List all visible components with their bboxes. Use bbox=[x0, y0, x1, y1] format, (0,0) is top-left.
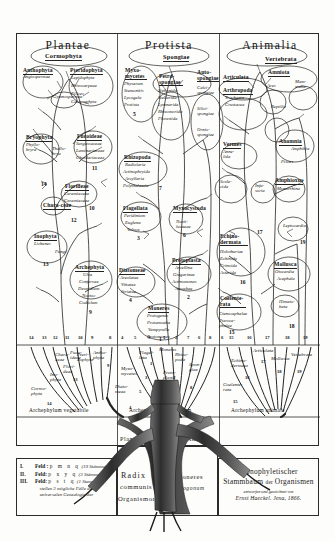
group-member-crinoida: Crinoida bbox=[220, 264, 237, 269]
group-member-volvox: Volvox bbox=[127, 228, 140, 233]
lower-label-echinodermata: Echino-dermata bbox=[231, 358, 253, 368]
scale-number-12: 12 bbox=[53, 336, 58, 341]
scale-number-7: 7 bbox=[187, 336, 189, 341]
realm-title-plantae: Plantae bbox=[25, 39, 111, 51]
group-member-radiolaria: Radiolaria bbox=[125, 163, 145, 168]
group-head-myxomycetes: Myxo-mycetes bbox=[125, 68, 147, 80]
group-member-areolatae: Areolatae bbox=[120, 276, 138, 281]
stem-number-1: 1 bbox=[159, 337, 162, 343]
lower-label-vertebrata: Vertebrata bbox=[291, 352, 312, 357]
radix-line-3: Organismorum bbox=[118, 495, 165, 502]
stem-number-9: 9 bbox=[89, 310, 92, 316]
legend-paren-3: (1 Stamm) bbox=[77, 479, 98, 484]
scale-number-8b: 8 bbox=[209, 336, 211, 341]
stem-number-10: 10 bbox=[89, 206, 95, 212]
lower-number-15: 15 bbox=[233, 400, 238, 405]
group-head-amniota: Amniota bbox=[268, 70, 290, 77]
group-member-orniospongiae: Ornio-spongiae bbox=[197, 128, 216, 138]
lower-label-myxomycetes: Myxo-mycetes bbox=[121, 366, 139, 376]
scale-number-9: 9 bbox=[91, 336, 93, 341]
scale-number-11: 11 bbox=[65, 336, 69, 341]
group-member-physarum: Physarum bbox=[124, 82, 143, 87]
group-member-vampyrella: Vampyrella bbox=[148, 328, 169, 333]
stem-number-4: 4 bbox=[129, 298, 132, 304]
scale-number-6b: 6 bbox=[221, 336, 223, 341]
scale-number-1: 1 bbox=[163, 336, 165, 341]
group-head-himatobata: Himato-bata bbox=[279, 300, 297, 310]
lower-label-rhizopoda: Rhizo-poda bbox=[175, 352, 191, 362]
stem-number-19: 19 bbox=[300, 240, 306, 246]
group-member-annelida: Anne-lida bbox=[223, 150, 239, 160]
haeckel-tree-page: Plantae Protista Animalia Cormophyta Ant… bbox=[0, 0, 335, 541]
stem-number-7: 7 bbox=[159, 186, 162, 192]
group-head-cormophyta: Cormophyta bbox=[45, 53, 82, 61]
group-member-euglena: Euglena bbox=[125, 221, 141, 226]
group-member-striatae: Striatae bbox=[121, 290, 136, 295]
lower-label-spongiae: Spon-giae bbox=[189, 362, 205, 372]
stem-number-3: 3 bbox=[137, 236, 140, 242]
lower-number-1: 1 bbox=[150, 362, 152, 367]
lower-label-moneres: Moneres bbox=[159, 347, 176, 352]
scale-number-16: 16 bbox=[247, 336, 252, 341]
legend-feld-3: Feld: bbox=[35, 478, 47, 484]
scale-number-18: 18 bbox=[285, 336, 290, 341]
group-member-ctenocephalae: Ctenocephalae bbox=[219, 312, 247, 317]
legend-feld-2: Feld: bbox=[35, 471, 47, 477]
group-member-thallobrya: Thallo-brya bbox=[52, 147, 70, 157]
signature-stammbaum: Stammbaum bbox=[223, 477, 265, 486]
group-member-arcyllaria: Arcyllaria bbox=[125, 177, 144, 182]
signature-line-1: Monophyletischer bbox=[219, 467, 318, 476]
group-member-stellarida: Stellarida bbox=[158, 96, 177, 101]
archephylum-vegetabile: Archephylum vegetabile bbox=[29, 408, 89, 414]
scale-number-10: 10 bbox=[78, 336, 83, 341]
group-member-florestida: Florestida bbox=[158, 117, 177, 122]
lower-number-17: 17 bbox=[261, 360, 266, 365]
group-member-actinophryida: Actinophryida bbox=[123, 170, 150, 175]
scale-number-14: 14 bbox=[29, 336, 34, 341]
stem-number-5: 5 bbox=[133, 112, 136, 118]
group-member-pterocephalae: Pteroce-phalae bbox=[219, 319, 243, 329]
legend-row-1: I.Feld : p m n q (19 Stämme) bbox=[20, 463, 113, 469]
group-member-siphonida: Siphonida bbox=[158, 89, 177, 94]
group-member-asterida: Asterida bbox=[220, 271, 236, 276]
tree-diagram-frame: Plantae Protista Animalia Cormophyta Ant… bbox=[16, 33, 319, 446]
group-member-leptocardia: Leptocardia bbox=[283, 224, 303, 229]
moneres-autogonum-line-2: autogonum bbox=[174, 485, 205, 491]
scale-number-4: 4 bbox=[121, 336, 123, 341]
group-member-angiospermae: Angiospermae bbox=[23, 75, 50, 80]
group-member-codiolum: Codiolum bbox=[79, 301, 98, 306]
kingdom-bottom-animalia: Animalia bbox=[187, 435, 214, 442]
moneres-autogonum-line-1: Moneres bbox=[176, 473, 203, 480]
group-head-scolecida: Scole-cida bbox=[220, 180, 236, 190]
lower-label-florideae: Flori-deae bbox=[63, 364, 79, 374]
lower-number-18: 18 bbox=[277, 370, 282, 375]
radix-line-2: communis bbox=[120, 483, 152, 490]
legend-roman-1: I. bbox=[20, 463, 35, 469]
legend-paren-1: (19 Stämme) bbox=[81, 464, 106, 469]
group-member-noctoc: Noctoc bbox=[82, 294, 95, 299]
lower-label-articulata: Articulata bbox=[253, 348, 273, 353]
group-member-echinida: Echinida bbox=[220, 257, 237, 262]
signature-frame: Monophyletischer Stammbaum der Organisme… bbox=[218, 458, 319, 516]
group-member-ulva: Ulva bbox=[83, 273, 92, 278]
group-member-phyllobrya: Phyllo-bryra bbox=[26, 143, 44, 153]
group-head-amphioxus: Amphioxus bbox=[275, 178, 303, 185]
stem-number-6: 6 bbox=[183, 233, 186, 239]
stem-number-12: 12 bbox=[71, 218, 77, 224]
signature-organismen: Organismen bbox=[275, 477, 314, 486]
group-member-calcispongiae: Calci-spongiae bbox=[197, 86, 216, 96]
group-member-pisces: Pisces bbox=[281, 160, 293, 165]
stem-number-17: 17 bbox=[257, 230, 263, 236]
group-head-spongiae: Spongiae bbox=[163, 54, 189, 62]
legend-codes-3: p s t q bbox=[48, 478, 75, 484]
group-member-polythalamia: Polythalamia bbox=[123, 184, 148, 189]
archephylum-protisticum: Archephylum protisticum bbox=[129, 408, 191, 414]
lower-label-protoplasta: Proto-plasta bbox=[163, 370, 179, 380]
legend-frame: I.Feld : p m n q (19 Stämme) II.Feld: p … bbox=[16, 458, 117, 516]
scale-number-8a: 8 bbox=[109, 336, 111, 341]
group-member-lepidophyta: Lepidophyta bbox=[71, 76, 94, 81]
lower-label-flagellata: Flagel-lata bbox=[139, 350, 155, 360]
group-member-sargassaceae: Sargassaceae bbox=[76, 142, 102, 147]
lower-label-mollusca: Mollusca bbox=[271, 356, 290, 361]
group-head-infusoria: Infu-soria bbox=[255, 184, 272, 194]
